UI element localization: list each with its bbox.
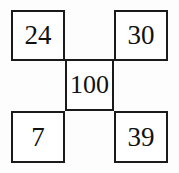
- cell-top-right-value: 30: [128, 22, 155, 49]
- cell-top-left: 24: [11, 10, 65, 61]
- cell-center-value: 100: [70, 72, 109, 98]
- cell-bottom-left: 7: [11, 111, 65, 163]
- cell-bottom-right: 39: [114, 111, 168, 163]
- cell-top-right: 30: [114, 10, 168, 61]
- cell-top-left-value: 24: [25, 22, 52, 49]
- cell-bottom-left-value: 7: [31, 124, 45, 151]
- cell-bottom-right-value: 39: [128, 124, 155, 151]
- cell-center: 100: [65, 59, 114, 111]
- number-puzzle-diagram: 24 30 100 7 39: [0, 0, 179, 173]
